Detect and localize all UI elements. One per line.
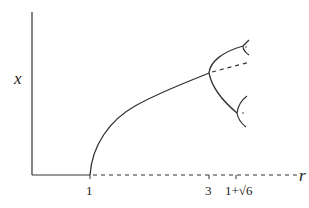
y-axis-label: x: [13, 69, 22, 88]
x-axis-label: r: [299, 166, 306, 185]
bifurcation-diagram: x r 1 3 1+√6: [0, 0, 309, 208]
tick-label-1-plus-sqrt6: 1+√6: [225, 183, 253, 198]
period4-lower-unstable-dot: [242, 112, 244, 114]
tick-label-3: 3: [205, 183, 212, 198]
period2-lower-branch: [209, 73, 237, 113]
tick-label-1: 1: [86, 183, 93, 198]
period4-lower-b: [237, 113, 246, 127]
period2-upper-branch: [209, 46, 243, 73]
period4-lower-a: [237, 96, 247, 113]
period4-upper-unstable-dot: [245, 46, 247, 48]
unstable-fixed-point-continuation: [212, 62, 250, 72]
stable-fixed-point-curve: [90, 73, 209, 175]
period4-upper-a: [243, 40, 249, 46]
